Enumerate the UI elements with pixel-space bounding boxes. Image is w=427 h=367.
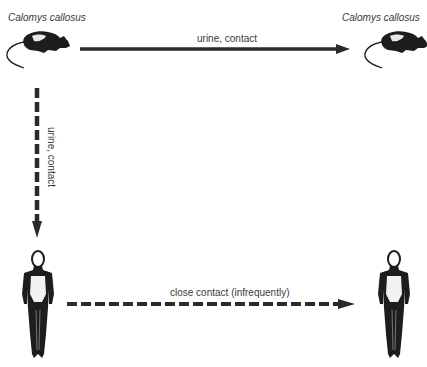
arrow-dashed-rodent-to-human bbox=[32, 88, 42, 238]
human-right-icon bbox=[378, 251, 410, 358]
human-left-icon bbox=[22, 251, 54, 358]
arrow-dashed-human-to-human bbox=[67, 299, 355, 309]
rodent-right-icon bbox=[365, 31, 427, 68]
diagram-canvas bbox=[0, 0, 427, 367]
arrow-solid-rodent-to-rodent bbox=[80, 44, 350, 54]
rodent-left-icon bbox=[7, 31, 70, 68]
